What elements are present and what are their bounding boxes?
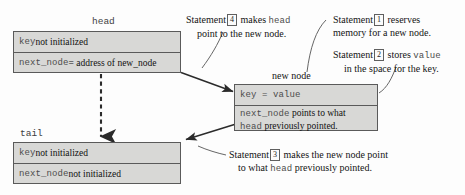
tail-key-mono: key: [19, 148, 36, 158]
statement3-line2-pre: to what: [238, 162, 270, 173]
statement1-line2: memory for a new node.: [333, 27, 431, 40]
new-node-next-line2: head previously pointed.: [240, 121, 372, 134]
statement3-line2-post: previously pointed.: [292, 162, 372, 173]
diagram-canvas: head key not initialized next_node = add…: [0, 0, 465, 195]
head-node-box: key not initialized next_node = address …: [13, 31, 181, 73]
head-key-mono: key: [19, 37, 36, 47]
statement3-line2-mono: head: [270, 164, 292, 174]
caption-statement-1: Statement1 reserves memory for a new nod…: [333, 14, 431, 40]
new-node-row-key: key = value: [235, 85, 377, 105]
new-node-box: key = value next_node points to what hea…: [234, 84, 378, 131]
caption-statement-4: Statement4 makes head point to the new n…: [186, 14, 291, 40]
new-node-next-text: points to what: [290, 108, 346, 118]
new-node-head-mono: head: [240, 122, 262, 132]
connector-new-node-to-tail: [186, 124, 236, 140]
statement1-prefix: Statement: [333, 14, 373, 25]
statement4-line2: point to the new node.: [186, 28, 291, 41]
tail-node-box: key not initialized next_node not initia…: [13, 142, 181, 184]
leader-statement3: [198, 146, 226, 155]
head-row-key: key not initialized: [14, 32, 180, 52]
statement2-number-badge: 2: [374, 49, 384, 61]
tail-row-key: key not initialized: [14, 143, 180, 163]
connector-head-to-new-node: [181, 73, 233, 92]
statement4-mid: makes: [238, 14, 269, 25]
statement1-mid: reserves: [385, 14, 420, 25]
new-node-next-mono: next_node: [240, 109, 290, 119]
head-next-node-text: = address of new_node: [69, 58, 157, 68]
statement3-mid: makes the new node point: [281, 149, 388, 160]
head-node-label: head: [92, 16, 115, 27]
head-next-node-mono: next_node: [19, 58, 69, 68]
leader-statement1: [307, 20, 326, 72]
statement2-mono: value: [413, 51, 441, 61]
caption-statement-3: Statement3 makes the new node point to w…: [229, 149, 388, 176]
caption-statement-2: Statement2 stores value in the space for…: [333, 49, 441, 75]
statement4-mono: head: [269, 16, 291, 26]
statement1-number-badge: 1: [374, 14, 384, 26]
new-node-key-mono: key = value: [240, 90, 301, 100]
tail-node-label: tail: [20, 128, 43, 139]
head-key-text: not initialized: [36, 37, 89, 47]
tail-next-node-text: not initialized: [69, 169, 122, 179]
statement4-number-badge: 4: [227, 14, 237, 26]
new-node-head-text: previously pointed.: [262, 121, 338, 131]
statement3-number-badge: 3: [270, 149, 280, 161]
new-node-label: new node: [272, 70, 311, 81]
statement2-mid: stores: [385, 49, 413, 60]
statement4-prefix: Statement: [186, 14, 226, 25]
statement3-line2: to what head previously pointed.: [229, 162, 388, 176]
statement2-line2: in the space for the key.: [333, 63, 441, 76]
head-row-next-node: next_node = address of new_node: [14, 52, 180, 73]
new-node-next-line1: next_node points to what: [240, 108, 372, 121]
tail-row-next-node: next_node not initialized: [14, 163, 180, 184]
tail-next-node-mono: next_node: [19, 169, 69, 179]
new-node-row-next-node: next_node points to what head previously…: [235, 105, 377, 131]
statement3-prefix: Statement: [229, 149, 269, 160]
statement2-prefix: Statement: [333, 49, 373, 60]
tail-key-text: not initialized: [36, 148, 89, 158]
